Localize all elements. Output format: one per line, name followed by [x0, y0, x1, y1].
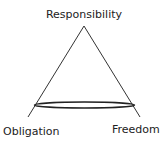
- label-responsibility: Responsibility: [46, 8, 123, 21]
- label-freedom: Freedom: [112, 123, 160, 136]
- label-obligation: Obligation: [3, 125, 60, 138]
- left-edge-line: [28, 26, 84, 117]
- triangle-diagram: Responsibility Obligation Freedom: [0, 0, 165, 143]
- base-ellipse: [35, 102, 135, 108]
